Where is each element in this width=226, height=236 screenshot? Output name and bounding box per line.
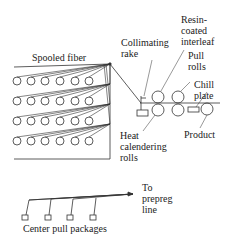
label-center-pull-packages: Center pull packages [23, 223, 107, 234]
label-spooled-fiber: Spooled fiber [32, 52, 86, 63]
collimating-rake [137, 96, 148, 116]
label-collimating-rake: Collimating rake [121, 37, 169, 59]
label-resin-interleaf: Resin- coated interleaf [181, 14, 214, 47]
label-heat-calendering-rolls: Heat calendering rolls [120, 130, 167, 163]
label-pull-rolls: Pull rolls [188, 50, 206, 72]
label-to-prepreg-line: To prepreg line [142, 182, 173, 215]
label-chill-plate: Chill plate [194, 79, 214, 101]
product-roll [201, 103, 213, 115]
heat-calendering-rolls [152, 91, 164, 116]
center-pull-packages [22, 192, 133, 220]
chill-plate [188, 107, 199, 112]
pull-rolls [172, 91, 184, 116]
label-product: Product [184, 129, 215, 140]
